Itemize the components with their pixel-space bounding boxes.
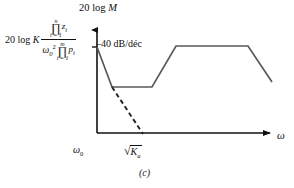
omega-symbol: ω xyxy=(73,144,80,155)
magnitude-asymptote-curve xyxy=(97,46,272,87)
minus40-extension-dashed-line xyxy=(112,87,143,134)
numerator-term: zi xyxy=(62,22,67,34)
omega-subscript: 0 xyxy=(80,150,83,157)
xtick-label-omega-zero: ω0 xyxy=(73,145,83,158)
gain-formula-lead-variable: K xyxy=(33,34,40,45)
fraction-numerator: n ∏ i = 1 zi xyxy=(49,18,68,38)
gain-formula-lead-text: 20 log xyxy=(5,34,33,45)
fraction-bar xyxy=(41,39,75,40)
slope-annotation-label: –40 dB/déc xyxy=(96,39,142,49)
y-axis-title-prefix: 20 log xyxy=(79,2,108,13)
gain-formula-fraction: n ∏ i = 1 zi ω02 m ∏ i = 1 pi xyxy=(41,18,75,61)
denominator-lower-limit: i = 1 xyxy=(57,55,69,61)
denominator-term: pi xyxy=(68,45,74,57)
gain-formula-lead: 20 log K xyxy=(5,35,39,45)
denominator-prefactor-exponent: 2 xyxy=(52,43,55,50)
figure-container: 20 log M ω –40 dB/déc ω0 √ Ka (c) 20 log… xyxy=(0,0,294,188)
denominator-term-subscript: i xyxy=(73,49,75,56)
numerator-lower-limit: i = 1 xyxy=(50,32,62,38)
y-axis-title-variable: M xyxy=(108,2,117,13)
sqrt-radical-group: √ Ka xyxy=(124,145,142,159)
figure-caption: (c) xyxy=(139,168,150,178)
radical-body: Ka xyxy=(130,145,142,159)
denominator-product-operator: m ∏ i = 1 xyxy=(57,41,69,61)
radicand-subscript: a xyxy=(137,152,140,159)
y-axis-title: 20 log M xyxy=(79,3,117,14)
gain-level-formula: 20 log K n ∏ i = 1 zi ω02 m ∏ i = 1 pi xyxy=(5,18,76,61)
fraction-denominator: ω02 m ∏ i = 1 pi xyxy=(41,41,75,61)
x-axis-title: ω xyxy=(277,130,285,141)
numerator-product-operator: n ∏ i = 1 xyxy=(50,18,62,38)
xtick-label-sqrt-ka: √ Ka xyxy=(124,145,142,159)
denominator-prefactor: ω02 xyxy=(42,44,56,59)
denominator-prefactor-subscript: 0 xyxy=(49,50,52,57)
numerator-term-subscript: i xyxy=(65,26,67,33)
